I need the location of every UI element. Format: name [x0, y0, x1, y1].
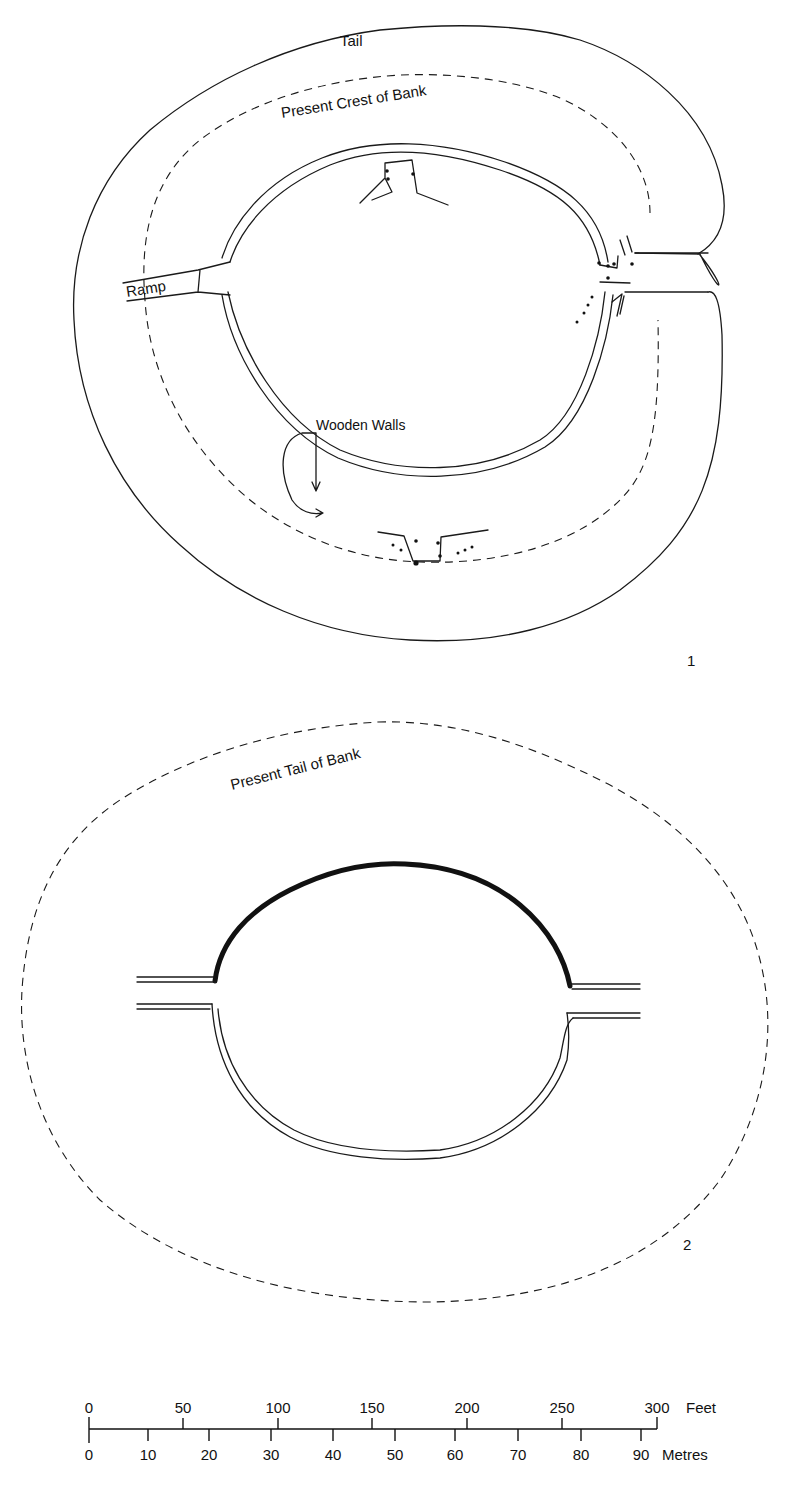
feet-tick-label: 250 — [549, 1399, 574, 1416]
inner-wall-outer-line — [228, 152, 605, 467]
east-entrance-upper — [570, 984, 640, 989]
metre-tick-label: 10 — [140, 1446, 157, 1463]
metre-tick-label: 80 — [573, 1446, 590, 1463]
feet-tick-label: 200 — [454, 1399, 479, 1416]
upper-wall-thick — [215, 864, 570, 986]
east-entrance-lower — [567, 1013, 640, 1018]
tail-of-bank-dashed-line — [22, 722, 768, 1302]
tail-of-bank-label: Present Tail of Bank — [229, 744, 363, 793]
metre-tick-label: 70 — [510, 1446, 527, 1463]
west-entrance-lower — [137, 1004, 212, 1009]
bank-tail-outline-upper — [74, 26, 725, 641]
metre-tick-label: 30 — [263, 1446, 280, 1463]
feet-tick-label: 100 — [265, 1399, 290, 1416]
metre-ticks — [89, 1429, 641, 1443]
feet-tick-label: 150 — [359, 1399, 384, 1416]
lower-wall-outer — [212, 1004, 569, 1159]
figure-1-number: 1 — [687, 652, 695, 669]
crest-dashed-line — [144, 75, 658, 563]
feet-unit-label: Feet — [686, 1399, 717, 1416]
wooden-walls-label: Wooden Walls — [316, 417, 405, 433]
plan-1: Tail Present Crest of Bank Ramp Wooden W… — [74, 26, 725, 669]
crest-label: Present Crest of Bank — [280, 81, 428, 121]
metres-unit-label: Metres — [662, 1446, 708, 1463]
bank-tail-outline — [635, 253, 719, 285]
metre-tick-label: 20 — [201, 1446, 218, 1463]
figure-2-number: 2 — [683, 1236, 691, 1253]
site-plans-figure: Tail Present Crest of Bank Ramp Wooden W… — [0, 0, 795, 1510]
scale-bar: 0 50 100 150 200 250 300 Feet 0 10 20 30… — [85, 1399, 717, 1463]
metre-tick-labels: 0 10 20 30 40 50 60 70 80 90 — [85, 1446, 650, 1463]
metre-tick-label: 60 — [447, 1446, 464, 1463]
feet-tick-label: 0 — [85, 1399, 93, 1416]
feet-tick-labels: 0 50 100 150 200 250 300 — [85, 1399, 670, 1416]
feet-ticks — [89, 1417, 657, 1429]
feet-tick-label: 300 — [644, 1399, 669, 1416]
lower-wall-inner — [218, 1009, 573, 1151]
metre-tick-label: 40 — [325, 1446, 342, 1463]
feet-tick-label: 50 — [175, 1399, 192, 1416]
tail-label: Tail — [340, 32, 363, 49]
south-bastion — [378, 530, 488, 561]
metre-tick-label: 50 — [387, 1446, 404, 1463]
metre-tick-label: 90 — [633, 1446, 650, 1463]
north-bastion — [360, 160, 448, 205]
metre-tick-label: 0 — [85, 1446, 93, 1463]
west-entrance-upper — [137, 977, 216, 982]
plan-2: Present Tail of Bank 2 — [22, 722, 768, 1302]
